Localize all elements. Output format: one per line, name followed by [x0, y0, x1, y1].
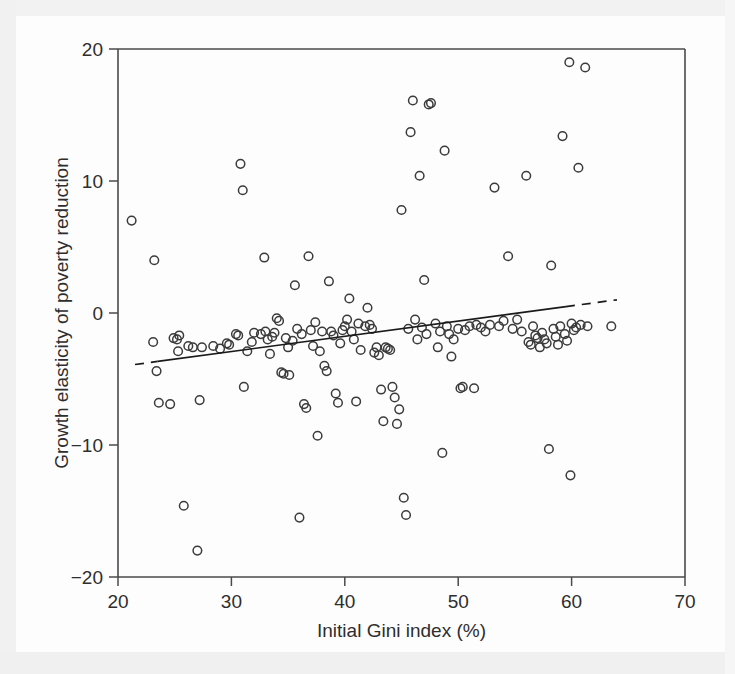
data-point [260, 253, 269, 262]
data-point [149, 338, 158, 347]
data-point [607, 322, 616, 331]
x-tick-label: 70 [674, 591, 695, 612]
data-point [306, 326, 315, 335]
data-point [155, 398, 164, 407]
data-point [193, 546, 202, 555]
data-point [325, 277, 334, 286]
y-tick-label: 0 [92, 303, 103, 324]
data-point [565, 58, 574, 67]
data-point [238, 186, 247, 195]
axis-ticks [109, 49, 685, 586]
data-point [420, 276, 429, 285]
data-point [316, 347, 325, 356]
data-point [334, 398, 343, 407]
axes-frame [118, 49, 685, 577]
data-point [345, 294, 354, 303]
data-point [388, 383, 397, 392]
data-point [272, 314, 281, 323]
data-point [409, 96, 418, 105]
data-point [581, 63, 590, 72]
data-point [413, 335, 422, 344]
data-point [526, 340, 535, 349]
data-point [379, 417, 388, 426]
trend-line-solid [158, 307, 566, 362]
data-point [336, 339, 345, 348]
x-tick-label: 40 [334, 591, 355, 612]
data-point [297, 330, 306, 339]
data-point [558, 132, 567, 141]
trend-line-dashed-start [135, 361, 158, 364]
data-point [313, 431, 322, 440]
data-point [285, 371, 294, 380]
y-tick-label: 20 [82, 39, 103, 60]
data-point [377, 385, 386, 394]
data-point [179, 501, 188, 510]
data-point [331, 389, 340, 398]
data-point [566, 471, 575, 480]
x-tick-label: 20 [107, 591, 128, 612]
y-tick-label: −20 [71, 567, 103, 588]
data-point [390, 393, 399, 402]
data-point [291, 281, 300, 290]
data-point [198, 343, 207, 352]
trend-line-dashed-end [566, 300, 617, 307]
data-point [350, 335, 359, 344]
data-point [422, 330, 431, 339]
data-point [524, 338, 533, 347]
data-points [127, 58, 615, 555]
data-point [447, 352, 456, 361]
data-point [547, 261, 556, 270]
data-point [248, 338, 257, 347]
data-point [449, 335, 458, 344]
data-point [574, 164, 583, 173]
data-point [393, 420, 402, 429]
data-point [554, 340, 563, 349]
scatter-plot: 20304050607020100−10−20 [0, 0, 735, 674]
data-point [311, 318, 320, 327]
data-point [320, 362, 329, 371]
data-point [236, 160, 245, 169]
data-point [363, 303, 372, 312]
data-point [529, 322, 538, 331]
data-point [150, 256, 159, 265]
data-point [517, 327, 526, 336]
data-point [240, 383, 249, 392]
data-point [402, 511, 411, 520]
data-point [318, 327, 327, 336]
y-tick-label: 10 [82, 171, 103, 192]
data-point [504, 252, 513, 261]
figure-container: 20304050607020100−10−20 Initial Gini ind… [0, 0, 735, 674]
data-point [293, 325, 302, 334]
data-point [127, 216, 136, 225]
data-point [397, 206, 406, 215]
data-point [152, 367, 161, 376]
axis-tick-labels: 20304050607020100−10−20 [71, 39, 696, 612]
data-point [356, 346, 365, 355]
data-point [545, 445, 554, 454]
y-tick-label: −10 [71, 435, 103, 456]
data-point [195, 396, 204, 405]
data-point [411, 315, 420, 324]
data-point [440, 146, 449, 155]
x-tick-label: 30 [221, 591, 242, 612]
data-point [433, 343, 442, 352]
data-point [445, 330, 454, 339]
data-point [499, 317, 508, 326]
data-point [395, 405, 404, 414]
data-point [513, 315, 522, 324]
trend-line [135, 300, 617, 365]
x-tick-label: 60 [561, 591, 582, 612]
data-point [304, 252, 313, 261]
data-point [470, 384, 479, 393]
data-point [266, 350, 275, 359]
data-point [508, 325, 517, 334]
data-point [486, 321, 495, 330]
data-point [295, 513, 304, 522]
data-point [406, 128, 415, 137]
data-point [438, 449, 447, 458]
x-tick-label: 50 [448, 591, 469, 612]
data-point [490, 183, 499, 192]
data-point [399, 494, 408, 503]
data-point [275, 317, 284, 326]
data-point [166, 400, 175, 409]
